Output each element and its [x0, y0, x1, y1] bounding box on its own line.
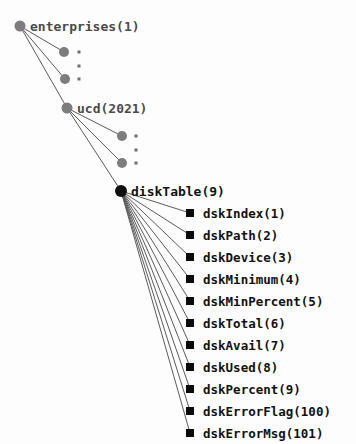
leaf-marker-5[interactable]	[186, 297, 194, 305]
leaf-marker-9[interactable]	[186, 385, 194, 393]
node-label-ucd: ucd(2021)	[77, 101, 147, 116]
leaf-marker-8[interactable]	[186, 363, 194, 371]
node-disktable[interactable]	[115, 185, 127, 197]
node-stub-3[interactable]	[117, 131, 127, 141]
tree-edge	[121, 191, 190, 345]
leaf-marker-4[interactable]	[186, 275, 194, 283]
tree-edge	[67, 108, 122, 163]
tree-edge	[20, 26, 67, 108]
leaf-label-11: dskErrorMsg(101)	[203, 426, 323, 441]
leaf-label-2: dskPath(2)	[203, 228, 278, 243]
tree-edge	[121, 191, 190, 301]
node-label-enterprises: enterprises(1)	[30, 19, 140, 34]
ellipsis-dot	[135, 148, 138, 151]
tree-edge	[121, 191, 190, 367]
tree-edge	[121, 191, 190, 279]
leaf-marker-3[interactable]	[186, 253, 194, 261]
leaf-label-9: dskPercent(9)	[203, 382, 301, 397]
tree-edge	[121, 191, 190, 411]
leaf-marker-10[interactable]	[186, 407, 194, 415]
leaf-marker-1[interactable]	[186, 209, 194, 217]
ellipsis-dot	[135, 162, 138, 165]
node-label-disktable: diskTable(9)	[131, 184, 225, 199]
leaf-label-10: dskErrorFlag(100)	[203, 404, 331, 419]
node-stub-1[interactable]	[59, 47, 69, 57]
node-stub-4[interactable]	[117, 158, 127, 168]
leaf-label-4: dskMinimum(4)	[203, 272, 301, 287]
node-enterprises[interactable]	[15, 21, 26, 32]
tree-edge	[121, 191, 190, 257]
leaf-label-3: dskDevice(3)	[203, 250, 293, 265]
ellipsis-dot	[78, 64, 81, 67]
ellipsis-dot	[78, 78, 81, 81]
leaf-marker-11[interactable]	[186, 429, 194, 437]
ellipsis-dot	[78, 51, 81, 54]
leaf-label-6: dskTotal(6)	[203, 316, 286, 331]
tree-edge	[121, 191, 190, 433]
tree-edge	[67, 108, 121, 191]
node-ucd[interactable]	[62, 103, 73, 114]
leaf-label-5: dskMinPercent(5)	[203, 294, 323, 309]
leaf-marker-6[interactable]	[186, 319, 194, 327]
leaf-label-8: dskUsed(8)	[203, 360, 278, 375]
leaf-label-1: dskIndex(1)	[203, 206, 286, 221]
node-stub-2[interactable]	[60, 74, 70, 84]
ellipsis-dot	[135, 135, 138, 138]
mib-tree-diagram: enterprises(1) ucd(2021) diskTable(9) ds…	[0, 0, 356, 444]
leaf-label-7: dskAvail(7)	[203, 338, 286, 353]
tree-edge	[121, 191, 190, 389]
leaf-marker-7[interactable]	[186, 341, 194, 349]
tree-edge	[121, 191, 190, 323]
tree-edge-layer	[0, 0, 356, 444]
leaf-marker-2[interactable]	[186, 231, 194, 239]
